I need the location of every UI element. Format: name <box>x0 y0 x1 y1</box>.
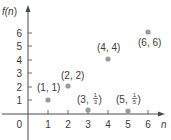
origin-label: 0 <box>16 119 22 130</box>
x-tick-label: 6 <box>145 119 151 130</box>
y-tick-labels: 1 2 3 4 5 6 <box>16 28 22 106</box>
scatter-chart: 1 2 3 4 5 6 0 1 2 3 4 5 6 f(n) n (1, 1) … <box>0 0 171 140</box>
data-point-6-6 <box>145 29 150 34</box>
x-axis-arrow-icon <box>158 112 165 117</box>
svg-text:(5,: (5, <box>116 94 128 105</box>
data-point-2-2 <box>65 83 70 88</box>
svg-text:): ) <box>138 94 141 105</box>
point-label-3-third: (3, 1 3 ) <box>77 92 102 105</box>
x-ticks <box>48 110 148 114</box>
data-point-4-4 <box>105 56 110 61</box>
point-label-5-fifth: (5, 1 5 ) <box>116 92 141 105</box>
svg-text:5: 5 <box>133 99 137 105</box>
svg-text:1: 1 <box>94 92 98 98</box>
y-ticks <box>28 33 32 100</box>
point-labels: (1, 1) (2, 2) (3, 1 3 ) (4, 4) (5, 1 5 )… <box>37 37 161 105</box>
point-label-4-4: (4, 4) <box>97 42 120 53</box>
y-axis-arrow-icon <box>26 5 31 12</box>
x-tick-labels: 0 1 2 3 4 5 6 <box>16 119 151 130</box>
y-tick-label: 2 <box>16 82 22 93</box>
data-point-1-1 <box>45 97 50 102</box>
y-tick-label: 5 <box>16 41 22 52</box>
y-tick-label: 4 <box>16 55 22 66</box>
svg-text:1: 1 <box>133 92 137 98</box>
x-tick-label: 4 <box>105 119 111 130</box>
point-label-6-6: (6, 6) <box>138 37 161 48</box>
svg-text:f(n): f(n) <box>2 6 17 17</box>
y-tick-label: 1 <box>16 95 22 106</box>
svg-text:(3,: (3, <box>77 94 89 105</box>
y-tick-label: 6 <box>16 28 22 39</box>
x-tick-label: 2 <box>65 119 71 130</box>
x-tick-label: 3 <box>85 119 91 130</box>
point-label-2-2: (2, 2) <box>61 70 84 81</box>
x-tick-label: 1 <box>45 119 51 130</box>
y-axis-title: f(n) <box>2 6 17 17</box>
data-point-5-fifth <box>125 108 130 113</box>
svg-text:): ) <box>99 94 102 105</box>
y-tick-label: 3 <box>16 68 22 79</box>
data-point-3-third <box>85 107 90 112</box>
point-label-1-1: (1, 1) <box>37 82 60 93</box>
x-axis-title: n <box>161 119 167 130</box>
svg-text:3: 3 <box>94 99 98 105</box>
x-tick-label: 5 <box>125 119 131 130</box>
